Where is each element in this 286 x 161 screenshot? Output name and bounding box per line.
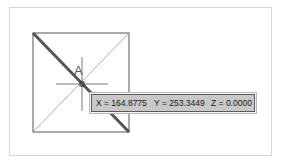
drawing-area[interactable] [0, 0, 286, 161]
coordinate-tooltip: X = 164.8775 Y = 253.3449 Z = 0.0000 [89, 92, 257, 114]
point-label: A [74, 63, 83, 78]
z-coordinate: Z = 0.0000 [211, 98, 252, 108]
x-coordinate: X = 164.8775 [96, 98, 154, 108]
coordinate-tooltip-body: X = 164.8775 Y = 253.3449 Z = 0.0000 [91, 94, 255, 112]
y-coordinate: Y = 253.3449 [154, 98, 211, 108]
